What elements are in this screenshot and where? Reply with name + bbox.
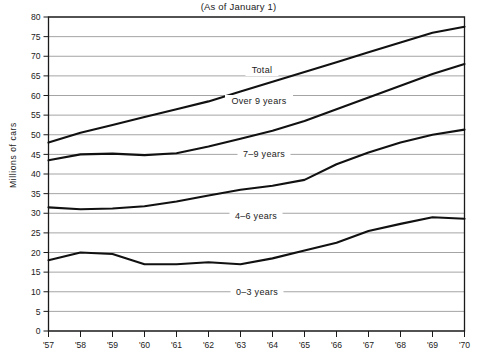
gridlines-group — [49, 37, 465, 312]
x-tick-label: '62 — [203, 340, 214, 350]
series-line-7-9-years — [49, 130, 465, 210]
x-tick-label: '70 — [459, 340, 470, 350]
y-tick-label: 25 — [31, 228, 41, 238]
x-tick-label: '68 — [395, 340, 406, 350]
y-tick-label: 20 — [31, 248, 41, 258]
x-axis-ticks-group: '57'58'59'60'61'62'63'64'65'66'67'68'69'… — [43, 331, 470, 350]
x-tick-label: '63 — [235, 340, 246, 350]
y-tick-label: 0 — [36, 326, 41, 336]
plot-area: 05101520253035404550556065707580 '57'58'… — [0, 0, 477, 356]
x-tick-label: '60 — [139, 340, 150, 350]
x-tick-label: '69 — [427, 340, 438, 350]
series-label-7-9-years: 7–9 years — [243, 149, 285, 159]
y-tick-label: 45 — [31, 150, 41, 160]
x-tick-label: '67 — [363, 340, 374, 350]
y-axis-ticks-group: 05101520253035404550556065707580 — [31, 12, 49, 336]
x-tick-label: '66 — [331, 340, 342, 350]
x-tick-label: '61 — [171, 340, 182, 350]
y-tick-label: 80 — [31, 12, 41, 22]
x-tick-label: '59 — [107, 340, 118, 350]
y-tick-label: 10 — [31, 287, 41, 297]
series-label-total: Total — [252, 65, 273, 75]
y-tick-label: 15 — [31, 267, 41, 277]
data-series-group — [49, 27, 465, 264]
y-tick-label: 30 — [31, 208, 41, 218]
y-tick-label: 50 — [31, 130, 41, 140]
y-tick-label: 40 — [31, 169, 41, 179]
y-tick-label: 70 — [31, 51, 41, 61]
y-tick-label: 5 — [36, 307, 41, 317]
y-tick-label: 60 — [31, 91, 41, 101]
x-tick-label: '64 — [267, 340, 278, 350]
series-label-4-6-years: 4–6 years — [235, 211, 277, 221]
y-tick-label: 65 — [31, 71, 41, 81]
y-tick-label: 75 — [31, 32, 41, 42]
y-tick-label: 55 — [31, 110, 41, 120]
x-tick-label: '65 — [299, 340, 310, 350]
series-line-0-3-years — [49, 217, 465, 264]
chart-figure: (As of January 1) Millions of cars 05101… — [0, 0, 477, 356]
y-tick-label: 35 — [31, 189, 41, 199]
series-label-over-9-years: Over 9 years — [231, 96, 286, 106]
x-tick-label: '58 — [75, 340, 86, 350]
series-line-over-9-years — [49, 64, 465, 160]
x-tick-label: '57 — [43, 340, 54, 350]
series-label-0-3-years: 0–3 years — [236, 287, 278, 297]
